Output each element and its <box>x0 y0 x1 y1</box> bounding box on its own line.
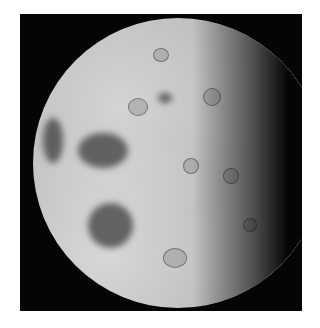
moon-image <box>33 18 302 308</box>
photo-frame <box>20 14 302 311</box>
terminator-shadow <box>33 18 302 308</box>
